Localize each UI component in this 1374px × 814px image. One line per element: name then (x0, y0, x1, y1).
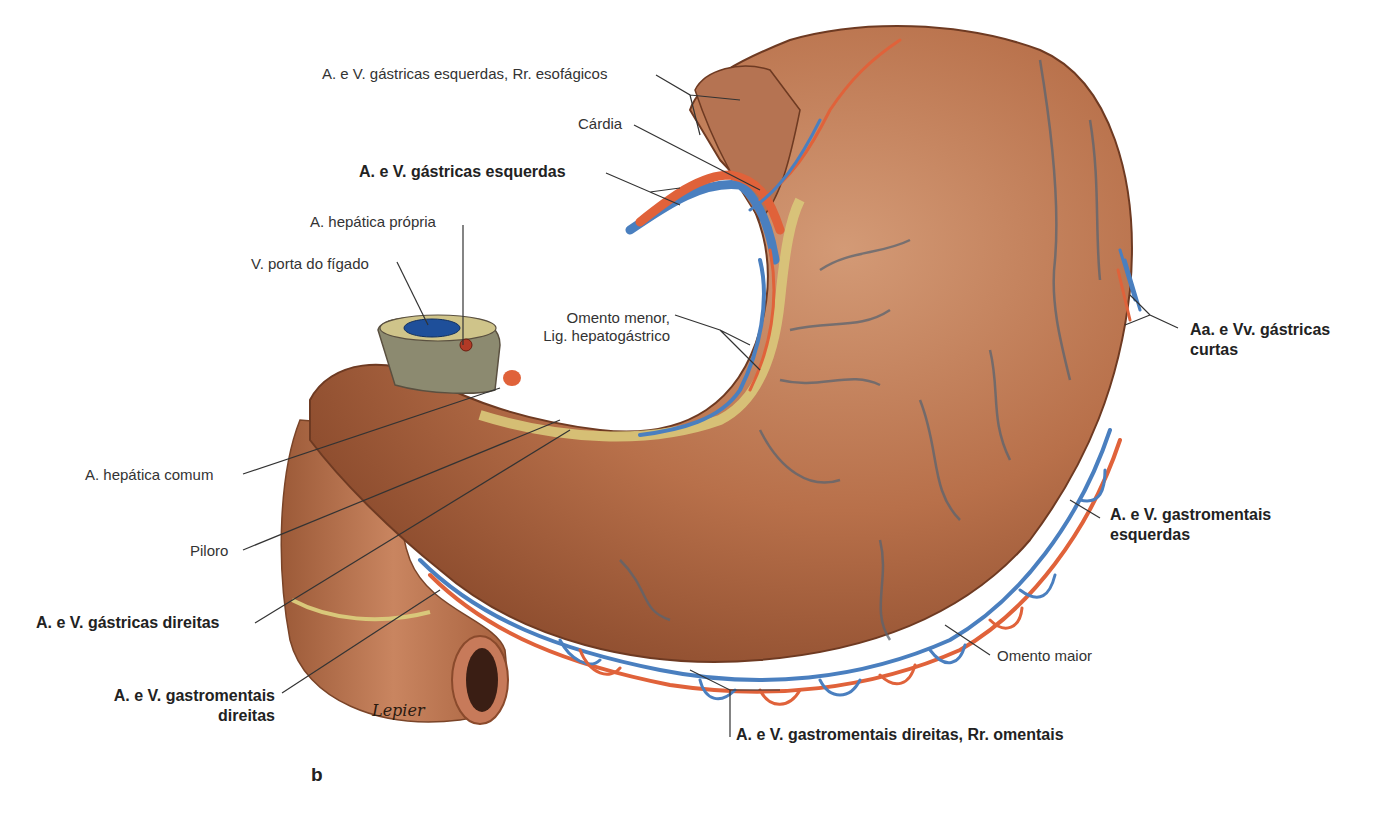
label-right-gastric: A. e V. gástricas direitas (36, 614, 220, 632)
label-cardia: Cárdia (578, 115, 622, 133)
label-lesser-omentum-line2: Lig. hepatogástrico (520, 327, 670, 345)
label-short-gastric-line2: curtas (1190, 340, 1330, 360)
panel-letter: b (311, 764, 323, 786)
label-left-gastric: A. e V. gástricas esquerdas (359, 163, 566, 181)
label-short-gastric-line1: Aa. e Vv. gástricas (1190, 320, 1330, 340)
label-omental-branches: A. e V. gastromentais direitas, Rr. omen… (736, 726, 1064, 744)
label-common-hepatic: A. hepática comum (85, 466, 213, 484)
label-portal-vein: V. porta do fígado (251, 255, 369, 273)
label-lesser-omentum-line1: Omento menor, (520, 309, 670, 327)
label-left-gastroomental: A. e V. gastromentais esquerdas (1110, 505, 1271, 545)
hepatoduodenal-ligament (378, 315, 521, 393)
artist-signature: Lepier (371, 701, 426, 720)
label-pylorus: Piloro (190, 542, 228, 560)
label-esophageal-branches: A. e V. gástricas esquerdas, Rr. esofági… (322, 65, 607, 83)
label-short-gastric: Aa. e Vv. gástricas curtas (1190, 320, 1330, 360)
label-right-gastroomental-line1: A. e V. gastromentais (60, 686, 275, 706)
label-right-gastroomental-line2: direitas (60, 706, 275, 726)
label-left-gastroomental-line1: A. e V. gastromentais (1110, 505, 1271, 525)
label-greater-omentum: Omento maior (997, 647, 1092, 665)
label-proper-hepatic: A. hepática própria (310, 213, 436, 231)
label-right-gastroomental: A. e V. gastromentais direitas (60, 686, 275, 726)
label-lesser-omentum: Omento menor, Lig. hepatogástrico (520, 309, 670, 345)
label-left-gastroomental-line2: esquerdas (1110, 525, 1271, 545)
